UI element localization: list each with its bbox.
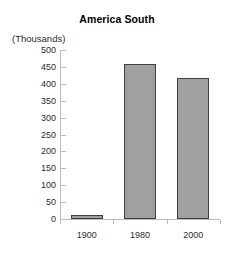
- y-tick-label-text: 250: [20, 131, 56, 140]
- y-tick-label-text: 400: [20, 80, 56, 89]
- y-tick-label-text: 300: [20, 114, 56, 123]
- y-tick-label: 500: [18, 46, 56, 55]
- y-tick-label: 250: [18, 131, 56, 140]
- bar-1900: [71, 215, 103, 219]
- y-tick-mark: [61, 118, 66, 119]
- y-tick-label: 300: [18, 114, 56, 123]
- y-tick-label-text: 100: [20, 181, 56, 190]
- y-tick-mark: [61, 101, 66, 102]
- y-tick-label-text: 50: [20, 198, 56, 207]
- y-tick-label-text: 500: [20, 46, 56, 55]
- y-tick-mark: [61, 84, 66, 85]
- y-tick-mark: [61, 135, 66, 136]
- y-tick-label: 150: [18, 164, 56, 173]
- y-tick-label-text: 200: [20, 147, 56, 156]
- y-tick-label-text: 350: [20, 97, 56, 106]
- y-tick-label: 200: [18, 147, 56, 156]
- y-tick-label: 100: [18, 181, 56, 190]
- bar-1980: [124, 64, 156, 219]
- y-tick-label: 400: [18, 80, 56, 89]
- y-tick-label: 0: [18, 215, 56, 224]
- y-tick-mark: [61, 50, 66, 51]
- bar-2000: [177, 78, 209, 219]
- y-tick-mark: [61, 185, 66, 186]
- y-tick-mark: [61, 168, 66, 169]
- x-tick-mark: [113, 220, 114, 224]
- y-tick-mark: [61, 151, 66, 152]
- x-tick-label-2000: 2000: [167, 230, 219, 240]
- y-tick-label: 450: [18, 63, 56, 72]
- x-tick-label-1980: 1980: [114, 230, 166, 240]
- y-tick-label: 50: [18, 198, 56, 207]
- plot-area: 050100150200250300350400450500 190019802…: [0, 0, 234, 257]
- y-tick-label-text: 450: [20, 63, 56, 72]
- y-tick-label-text: 0: [20, 215, 56, 224]
- x-tick-label-1900: 1900: [61, 230, 113, 240]
- y-tick-label: 350: [18, 97, 56, 106]
- x-tick-mark: [220, 220, 221, 224]
- x-axis-line: [60, 219, 220, 220]
- x-tick-mark: [60, 220, 61, 224]
- x-tick-mark: [167, 220, 168, 224]
- y-tick-mark: [61, 202, 66, 203]
- y-tick-label-text: 150: [20, 164, 56, 173]
- bar-chart: America South (Thousands) 05010015020025…: [0, 0, 234, 257]
- y-tick-mark: [61, 219, 66, 220]
- y-tick-mark: [61, 67, 66, 68]
